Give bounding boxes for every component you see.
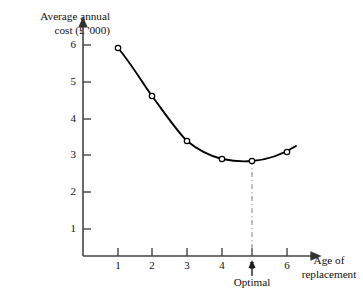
data-point-2	[149, 93, 154, 98]
x-tick-label-4: 4	[215, 259, 229, 271]
data-point-3	[184, 138, 189, 143]
data-point-6	[284, 149, 289, 154]
data-point-5	[249, 158, 254, 163]
x-axis-ticks	[118, 248, 287, 256]
cost-vs-age-chart: Average annual cost (£ '000) Age of repl…	[0, 0, 363, 301]
y-axis-ticks	[83, 45, 91, 229]
x-tick-label-1: 1	[111, 259, 125, 271]
x-tick-label-2: 2	[145, 259, 159, 271]
data-point-4	[219, 156, 224, 161]
data-point-1	[115, 45, 120, 50]
data-point-markers	[115, 45, 289, 163]
y-tick-label-1: 1	[62, 222, 76, 234]
y-tick-label-5: 5	[62, 75, 76, 87]
y-tick-label-4: 4	[62, 112, 76, 124]
plot-area	[0, 0, 363, 301]
cost-curve	[118, 48, 296, 161]
y-tick-label-2: 2	[62, 185, 76, 197]
x-tick-label-6: 6	[280, 259, 294, 271]
y-tick-label-3: 3	[62, 148, 76, 160]
y-tick-label-6: 6	[62, 38, 76, 50]
x-tick-label-5: 5	[245, 259, 259, 271]
x-tick-label-3: 3	[180, 259, 194, 271]
